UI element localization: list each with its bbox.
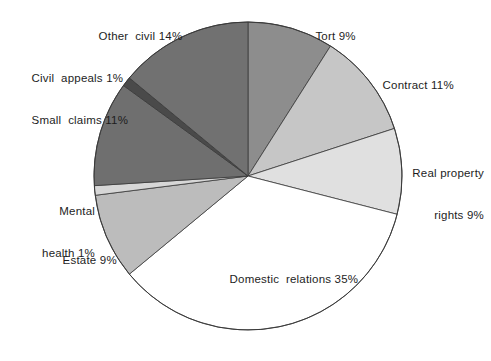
- slice-label-estate: Estate 9%: [49, 239, 117, 281]
- slice-label-real-property-rights: Real property rights 9%: [398, 138, 484, 250]
- slice-label-mental-health-line1: Mental: [10, 204, 95, 218]
- slice-label-domestic-relations: Domestic relations 35%: [216, 258, 358, 300]
- slice-label-other-civil: Other civil 14%: [85, 15, 182, 57]
- slice-label-real-property-line1: Real property: [398, 166, 484, 180]
- slice-label-other-civil-text: Other civil 14%: [99, 30, 183, 42]
- slice-label-contract-text: Contract 11%: [383, 79, 454, 91]
- slice-label-real-property-line2: rights 9%: [398, 208, 484, 222]
- slice-label-tort: Tort 9%: [302, 15, 356, 57]
- pie-chart-figure: Other civil 14% Civil appeals 1% Small c…: [0, 0, 491, 361]
- slice-label-contract: Contract 11%: [369, 64, 454, 106]
- slice-label-domestic-relations-text: Domestic relations 35%: [230, 273, 359, 285]
- slice-label-civil-appeals: Civil appeals 1%: [18, 57, 123, 99]
- slice-label-small-claims: Small claims 11%: [18, 99, 128, 141]
- slice-label-estate-text: Estate 9%: [63, 254, 117, 266]
- slice-label-civil-appeals-text: Civil appeals 1%: [32, 72, 124, 84]
- slice-label-tort-text: Tort 9%: [315, 30, 355, 42]
- slice-label-small-claims-text: Small claims 11%: [32, 114, 129, 126]
